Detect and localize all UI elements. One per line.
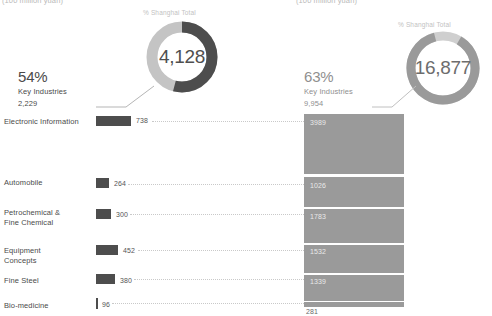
row-label-fine-steel: Fine Steel — [4, 276, 39, 286]
right-percent: 63% — [304, 68, 353, 85]
row-label-bio-medicine: Bio-medicine — [4, 301, 49, 311]
bar-equipment-concepts[interactable] — [96, 245, 118, 255]
right-leader-line — [372, 86, 418, 108]
bar-automobile[interactable] — [96, 178, 109, 188]
block-value-petrochemical: 1783 — [310, 213, 326, 220]
row-label-electronic-information: Electronic Information — [4, 117, 79, 127]
bar-value-petrochemical: 300 — [116, 211, 128, 218]
left-key-label: Key Industries — [18, 85, 67, 98]
connector-equipment-concepts — [138, 250, 304, 251]
right-key-value: 9,954 — [304, 98, 353, 110]
left-leader-line — [96, 86, 156, 108]
connector-fine-steel — [134, 279, 304, 280]
block-value-bio-medicine: 281 — [306, 308, 318, 315]
block-value-automobile: 1026 — [310, 182, 326, 189]
block-bio-medicine[interactable] — [304, 302, 404, 307]
bar-value-bio-medicine: 96 — [102, 301, 110, 308]
row-label-petrochemical: Petrochemical & Fine Chemical — [4, 208, 60, 228]
left-donut-chart[interactable]: 4,128 — [146, 21, 218, 93]
bar-value-electronic-information: 738 — [136, 117, 148, 124]
bar-petrochemical[interactable] — [96, 209, 111, 219]
right-key-industries-callout: 63% Key Industries 9,954 — [304, 68, 353, 110]
bar-value-equipment-concepts: 452 — [123, 247, 135, 254]
row-label-equipment-concepts: Equipment Concepts — [4, 246, 41, 266]
left-key-value: 2,229 — [18, 98, 67, 110]
right-donut-caption: % Shanghai Total — [398, 21, 451, 28]
block-value-equipment-concepts: 1532 — [310, 248, 326, 255]
bar-fine-steel[interactable] — [96, 274, 115, 284]
connector-electronic-information — [152, 121, 304, 122]
left-unit-label: (100 million yuan) — [2, 0, 63, 5]
block-value-electronic-information: 3989 — [310, 119, 326, 126]
left-percent: 54% — [18, 68, 67, 85]
row-label-automobile: Automobile — [4, 178, 43, 188]
bar-bio-medicine[interactable] — [96, 298, 98, 309]
block-value-fine-steel: 1339 — [310, 278, 326, 285]
bar-electronic-information[interactable] — [96, 116, 131, 126]
left-key-industries-callout: 54% Key Industries 2,229 — [18, 68, 67, 110]
connector-bio-medicine — [112, 303, 304, 304]
bar-value-automobile: 264 — [114, 180, 126, 187]
connector-petrochemical — [130, 214, 304, 215]
connector-automobile — [128, 184, 304, 185]
left-donut-total: 4,128 — [146, 21, 218, 93]
right-unit-label: (100 million yuan) — [296, 0, 357, 5]
bar-value-fine-steel: 380 — [120, 277, 132, 284]
right-key-label: Key Industries — [304, 85, 353, 98]
left-donut-caption: % Shanghai Total — [143, 9, 196, 16]
left-panel: (100 million yuan) % Shanghai Total 4,12… — [0, 0, 290, 316]
